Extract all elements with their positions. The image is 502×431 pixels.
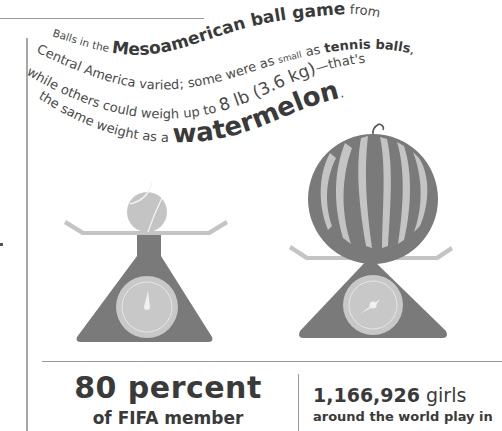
stats-divider bbox=[42, 361, 502, 362]
stats-column-divider bbox=[298, 374, 299, 431]
fifa-stat-description: of FIFA member bbox=[42, 407, 294, 429]
fifa-stat-value: 80 percent bbox=[42, 371, 294, 405]
girls-stat-number: 1,166,926 bbox=[313, 384, 420, 406]
watermelon-icon bbox=[308, 124, 438, 264]
fifa-stat: 80 percent of FIFA member bbox=[42, 371, 294, 429]
right-scale bbox=[289, 124, 453, 338]
girls-stat: 1,166,926 girls around the world play in bbox=[313, 384, 502, 426]
girls-stat-unit: girls bbox=[420, 384, 466, 406]
infographic-illustration: Balls in the Mesoamerican ball game from… bbox=[0, 0, 502, 431]
tennis-ball-icon bbox=[127, 182, 167, 232]
left-scale bbox=[64, 182, 228, 342]
girls-stat-description: around the world play in bbox=[313, 408, 502, 426]
watermelon-stem bbox=[373, 124, 384, 134]
